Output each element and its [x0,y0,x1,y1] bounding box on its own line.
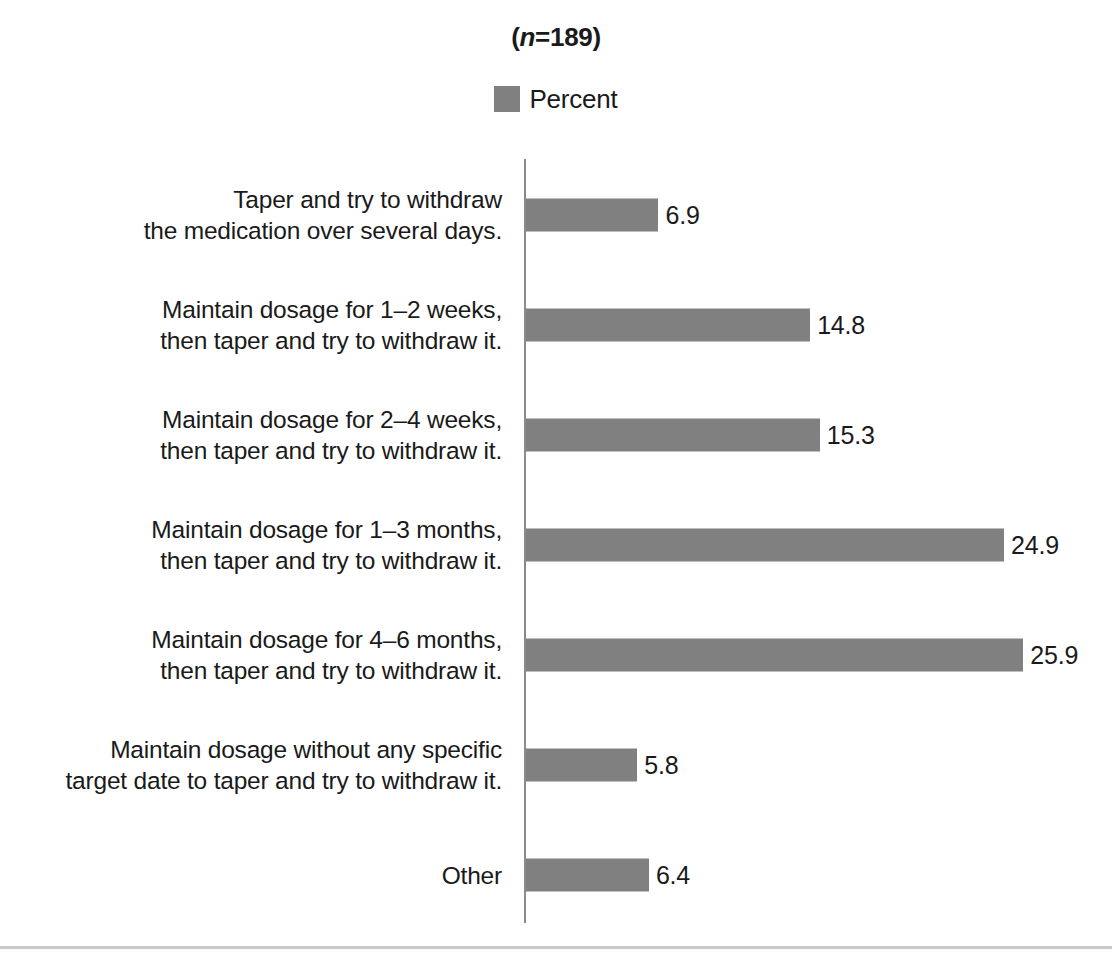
bar[interactable] [526,309,810,342]
bar-group: 25.9 [526,639,1078,672]
bar-value-label: 15.3 [827,423,875,448]
bar-row: Maintain dosage for 1–2 weeks, then tape… [0,270,1112,380]
bar-row: Other6.4 [0,820,1112,930]
bar[interactable] [526,529,1004,562]
bar-value-label: 14.8 [817,313,865,338]
bar-group: 15.3 [526,419,875,452]
bar-value-label: 24.9 [1011,533,1059,558]
bar-group: 6.4 [526,859,690,892]
bar-value-label: 25.9 [1030,643,1078,668]
bar-value-label: 6.4 [656,863,690,888]
bar[interactable] [526,199,658,232]
bar-rows: Taper and try to withdraw the medication… [0,160,1112,930]
bar-row: Maintain dosage for 1–3 months, then tap… [0,490,1112,600]
bar-group: 14.8 [526,309,865,342]
bar-group: 5.8 [526,749,679,782]
bar-value-label: 5.8 [644,753,678,778]
bar-value-label: 6.9 [665,203,699,228]
plot-area: Taper and try to withdraw the medication… [0,0,1112,961]
category-label: Maintain dosage for 1–3 months, then tap… [14,514,514,576]
bar-row: Maintain dosage for 2–4 weeks, then tape… [0,380,1112,490]
category-label: Maintain dosage for 4–6 months, then tap… [14,624,514,686]
bar-row: Maintain dosage for 4–6 months, then tap… [0,600,1112,710]
category-label: Maintain dosage for 1–2 weeks, then tape… [14,294,514,356]
bar[interactable] [526,859,649,892]
bar-chart-figure: (n=189) Percent Taper and try to withdra… [0,0,1112,961]
bar[interactable] [526,639,1023,672]
bar-row: Taper and try to withdraw the medication… [0,160,1112,270]
bar-row: Maintain dosage without any specific tar… [0,710,1112,820]
category-label: Other [14,860,514,891]
bar[interactable] [526,419,820,452]
bar-group: 24.9 [526,529,1059,562]
footer-divider [0,946,1112,949]
category-label: Maintain dosage without any specific tar… [14,734,514,796]
category-label: Taper and try to withdraw the medication… [14,184,514,246]
category-label: Maintain dosage for 2–4 weeks, then tape… [14,404,514,466]
bar-group: 6.9 [526,199,700,232]
bar[interactable] [526,749,637,782]
